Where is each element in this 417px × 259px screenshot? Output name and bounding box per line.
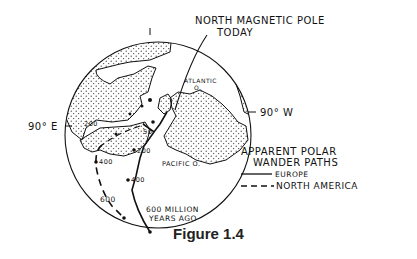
europe-marker-200 (132, 148, 136, 152)
legend-europe-label: EUROPE (275, 170, 309, 179)
north-america-landmass (164, 90, 248, 164)
europe-marker-400 (126, 178, 130, 182)
east-label: 90° E (28, 121, 58, 132)
na-tick-600: 600 (100, 195, 116, 204)
east-coast-landmass (236, 70, 250, 115)
europe-tick-200: 200 (137, 147, 151, 155)
legend-north-america-label: NORTH AMERICA (276, 181, 358, 191)
europe-tick-400: 400 (131, 176, 145, 184)
age-label-1: 600 MILLION (146, 205, 199, 214)
na-marker-400 (94, 160, 98, 164)
na-tick-400: 400 (99, 158, 113, 166)
atlantic-label-1: ATLANTIC (184, 77, 217, 84)
pole-marker (151, 120, 155, 124)
legend: APPARENT POLAR WANDER PATHS EUROPE NORTH… (241, 146, 358, 191)
figure-caption: Figure 1.4 (0, 225, 417, 242)
pole-label-line1: NORTH MAGNETIC POLE (195, 15, 325, 26)
legend-title-2: WANDER PATHS (253, 157, 338, 168)
europe-tick-50: 50 (143, 128, 152, 136)
north-america-wander-path (96, 145, 124, 218)
atlantic-label-2: O. (194, 84, 201, 91)
pacific-label: PACIFIC O. (162, 160, 200, 168)
landmasses (64, 30, 250, 164)
greenland-landmass (158, 94, 172, 114)
na-tick-200: 200 (84, 120, 98, 128)
pole-label-line2: TODAY (216, 27, 254, 38)
na-marker-600 (122, 216, 126, 220)
west-label: 90° W (260, 107, 293, 118)
age-label-2: YEARS AGO (148, 214, 197, 223)
polar-wander-diagram: NORTH MAGNETIC POLE TODAY 90° E 90° W AT… (0, 0, 417, 259)
legend-title-1: APPARENT POLAR (241, 146, 337, 157)
